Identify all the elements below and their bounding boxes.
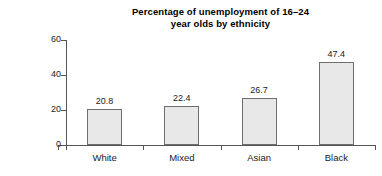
plot-area: 0204060 20.822.426.747.4 WhiteMixedAsian…: [66, 40, 375, 145]
y-axis-tick: [61, 40, 66, 41]
bar-value-label: 22.4: [157, 93, 207, 103]
y-axis-tick-label: 20: [51, 104, 61, 114]
x-axis-tick-origin: [58, 145, 59, 150]
x-axis-tick: [375, 145, 376, 150]
bar: [164, 106, 199, 145]
chart-title-line-2: year olds by ethnicity: [66, 18, 375, 30]
bar-value-label: 26.7: [234, 85, 284, 95]
bar-value-label: 47.4: [311, 49, 361, 59]
x-axis-line: [58, 145, 375, 146]
chart-title-line-1: Percentage of unemployment of 16–24: [66, 6, 375, 18]
y-axis-tick: [61, 75, 66, 76]
x-axis-tick: [66, 145, 67, 150]
y-axis-line: [66, 40, 67, 145]
x-axis-tick: [298, 145, 299, 150]
bar: [87, 109, 122, 145]
bar-value-label: 20.8: [80, 96, 130, 106]
bar: [319, 62, 354, 145]
x-axis-category-label: Black: [306, 152, 366, 163]
y-axis-tick: [61, 110, 66, 111]
x-axis-category-label: Mixed: [152, 152, 212, 163]
bar-chart: Percentage of unemployment of 16–24 year…: [0, 0, 382, 176]
chart-title: Percentage of unemployment of 16–24 year…: [66, 6, 375, 29]
bar: [242, 98, 277, 145]
x-axis-category-label: Asian: [229, 152, 289, 163]
x-axis-tick: [221, 145, 222, 150]
x-axis-category-label: White: [75, 152, 135, 163]
y-axis-tick-label: 40: [51, 69, 61, 79]
x-axis-tick: [143, 145, 144, 150]
y-axis-tick-label: 60: [51, 34, 61, 44]
